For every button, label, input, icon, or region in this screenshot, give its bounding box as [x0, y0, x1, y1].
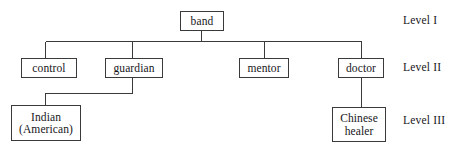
node-doctor[interactable]: doctor: [338, 58, 384, 78]
edge-guardian-indian: [46, 78, 133, 105]
node-band[interactable]: band: [180, 11, 224, 31]
level-label-1: Level I: [403, 14, 437, 26]
node-doctor-label: doctor: [346, 62, 376, 74]
hierarchy-diagram: band control guardian mentor doctor Indi…: [0, 0, 451, 152]
node-control[interactable]: control: [21, 58, 77, 78]
node-chinese-healer[interactable]: Chinese healer: [332, 107, 386, 142]
level-label-3: Level III: [403, 114, 445, 126]
node-mentor-label: mentor: [247, 62, 280, 74]
node-indian-american-label: Indian (American): [19, 111, 73, 136]
node-chinese-healer-label: Chinese healer: [340, 112, 378, 137]
node-control-label: control: [32, 62, 65, 74]
node-indian-american[interactable]: Indian (American): [11, 105, 81, 141]
node-mentor[interactable]: mentor: [239, 58, 289, 78]
node-guardian-label: guardian: [113, 62, 154, 74]
node-guardian[interactable]: guardian: [105, 58, 163, 78]
node-band-label: band: [191, 15, 214, 27]
level-label-2: Level II: [403, 61, 441, 73]
